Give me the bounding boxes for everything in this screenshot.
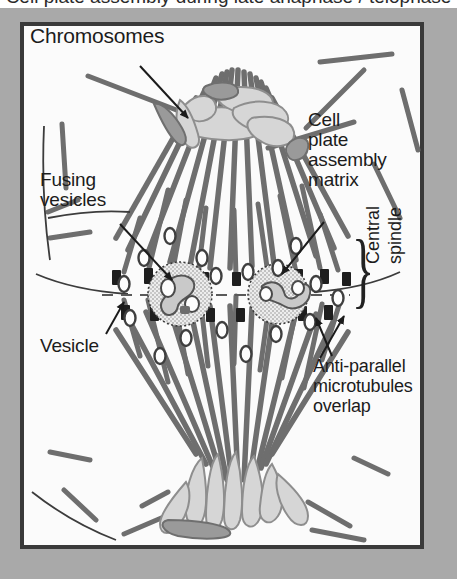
label-vesicle: Vesicle [40,336,99,356]
page-margin-bottom [0,556,457,579]
page-margin-right [428,8,457,579]
cell-plate-assembly-matrix-left [148,262,212,326]
label-central-spindle: Central spindle [362,168,386,264]
figure-title: Cell plate assembly during late anaphase… [0,0,457,7]
label-central-spindle-line1: Central [363,206,383,264]
label-anti-parallel-microtubules-overlap: Anti-parallel microtubules overlap [313,356,413,416]
label-chromosomes: Chromosomes [30,26,164,46]
label-central-spindle-line2: spindle [384,168,406,264]
figure-canvas: Cell plate assembly during late anaphase… [0,0,457,579]
label-fusing-vesicles: Fusing vesicles [40,170,106,210]
